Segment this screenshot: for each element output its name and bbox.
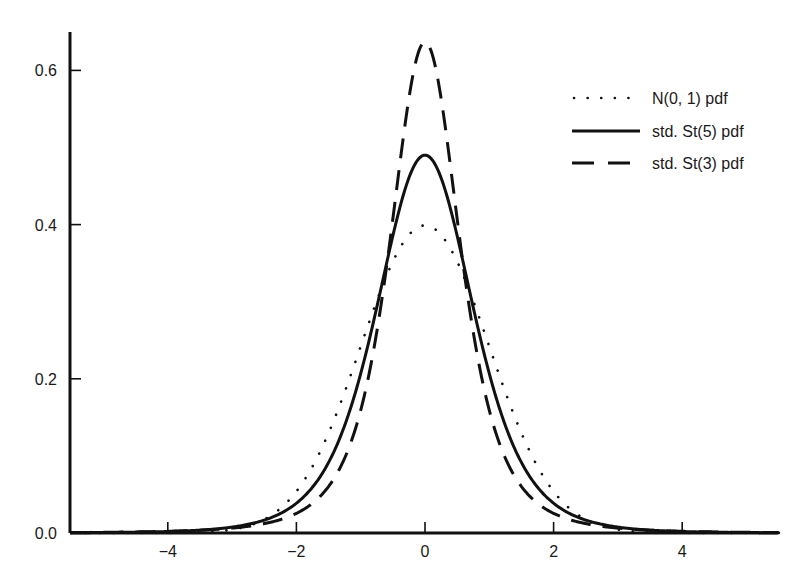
y-tick-label: 0.4 [35,217,57,234]
legend-label: N(0, 1) pdf [652,90,728,107]
x-tick-label: −4 [159,543,177,560]
legend-label: std. St(5) pdf [652,123,744,140]
y-tick-label: 0.6 [35,62,57,79]
std-st5-pdf-curve [71,155,778,533]
y-tick-label: 0.0 [35,525,57,542]
legend-label: std. St(3) pdf [652,155,744,172]
x-tick-label: −2 [287,543,305,560]
plot-curves [71,42,778,533]
pdf-comparison-chart: 0.00.20.40.6 −4−2024 N(0, 1) pdf std. St… [0,0,808,588]
normal-pdf-curve [71,225,778,533]
legend-item-st5: std. St(5) pdf [572,123,744,140]
legend: N(0, 1) pdf std. St(5) pdf std. St(3) pd… [572,90,744,172]
legend-item-st3: std. St(3) pdf [572,155,744,172]
std-st3-pdf-curve [71,42,778,532]
legend-item-normal: N(0, 1) pdf [574,90,728,107]
y-ticks: 0.00.20.40.6 [35,62,81,542]
x-tick-label: 2 [549,543,558,560]
x-tick-label: 0 [421,543,430,560]
y-tick-label: 0.2 [35,371,57,388]
x-tick-label: 4 [678,543,687,560]
